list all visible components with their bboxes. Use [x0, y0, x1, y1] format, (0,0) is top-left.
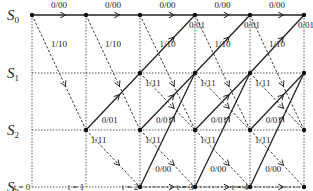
- state-node-S0-t2: [138, 13, 142, 17]
- edge-line: [250, 15, 304, 130]
- edge-label: 1/11: [145, 135, 161, 145]
- edge-label: 1/11: [255, 78, 271, 88]
- edge-line: [86, 15, 140, 130]
- edge-label: 0/01: [211, 115, 227, 125]
- state-node-S1-t5: [302, 71, 306, 75]
- edge-label: 0/00: [105, 0, 122, 10]
- edge-label: 1/10: [105, 39, 122, 49]
- state-label-S1: S1: [7, 65, 19, 83]
- edge-label: 0/00: [159, 0, 176, 10]
- time-labels: t = 0t = 1t = 2t = 3t = 4: [14, 182, 249, 191]
- transition-S0-S0: [140, 12, 195, 18]
- state-node-S0-t4: [248, 13, 252, 17]
- transition-S0-S2: [86, 15, 140, 130]
- edge-line: [195, 15, 250, 130]
- transition-S0-S0: [195, 12, 250, 18]
- edge-label: 1/11: [145, 78, 161, 88]
- edge-label: 0/00: [214, 0, 231, 10]
- time-label-t3: t = 3: [177, 182, 194, 191]
- state-label-S0: S0: [7, 7, 20, 25]
- transition-S0-S2: [140, 15, 195, 130]
- edge-label: 1/11: [91, 135, 107, 145]
- time-label-t2: t = 2: [122, 182, 139, 191]
- edge-label: 0/01: [102, 115, 118, 125]
- edge-label: 1/10: [214, 39, 231, 49]
- state-node-S2-t1: [84, 128, 88, 132]
- edge-label: 0/01: [156, 115, 172, 125]
- edge-label: 1/10: [269, 39, 286, 49]
- edge-line: [140, 15, 195, 130]
- edge-label: 0/01: [266, 115, 282, 125]
- state-node-S2-t3: [193, 128, 197, 132]
- time-label-t1: t = 1: [68, 182, 85, 191]
- trellis-diagram: S0S1S2S3 t = 0t = 1t = 2t = 3t = 4 0/001…: [0, 0, 313, 191]
- state-node-S2-t5: [302, 128, 306, 132]
- transition-S0-S2: [250, 15, 304, 130]
- state-label-S2: S2: [7, 122, 19, 140]
- trellis-canvas: S0S1S2S3 t = 0t = 1t = 2t = 3t = 4 0/001…: [0, 0, 313, 191]
- time-label-t4: t = 4: [232, 182, 249, 191]
- transition-S0-S0: [32, 12, 86, 18]
- state-node-S3-t3: [193, 185, 197, 189]
- state-node-S2-t2: [138, 128, 142, 132]
- state-node-S3-t2: [138, 185, 142, 189]
- edge-label: 1/11: [200, 135, 216, 145]
- transition-S0-S0: [86, 12, 140, 18]
- state-node-S0-t3: [193, 13, 197, 17]
- edge-label: 0/00: [210, 164, 227, 174]
- transition-S0-S2: [32, 15, 86, 130]
- edge-label: 0/01: [189, 20, 205, 30]
- edge-label: 0/00: [269, 0, 286, 10]
- edge-label: 0/00: [265, 164, 282, 174]
- edge-label: 1/10: [159, 39, 176, 49]
- transition-S0-S0: [250, 12, 304, 18]
- state-node-S3-t5: [302, 185, 306, 189]
- edge-line: [32, 15, 86, 130]
- edge-label: 1/11: [255, 135, 271, 145]
- transition-S0-S2: [195, 15, 250, 130]
- state-node-S2-t4: [248, 128, 252, 132]
- edge-label: 1/11: [200, 78, 216, 88]
- state-node-S0-t0: [30, 13, 34, 17]
- edge-label: 1/10: [51, 39, 68, 49]
- state-node-S1-t2: [138, 71, 142, 75]
- edge-label: 1/10: [162, 189, 179, 191]
- edge-label: 0/01: [244, 20, 260, 30]
- edge-label: 0/00: [155, 164, 172, 174]
- edge-label: 0/00: [51, 0, 68, 10]
- edge-label: 0/01: [298, 20, 313, 30]
- state-node-S0-t1: [84, 13, 88, 17]
- edge-label: 1/10: [217, 189, 234, 191]
- time-label-t0: t = 0: [14, 182, 31, 191]
- state-node-S1-t3: [193, 71, 197, 75]
- state-node-S0-t5: [302, 13, 306, 17]
- state-node-S1-t4: [248, 71, 252, 75]
- state-labels: S0S1S2S3: [7, 7, 20, 191]
- state-node-S3-t4: [248, 185, 252, 189]
- edge-label: 1/10: [272, 189, 289, 191]
